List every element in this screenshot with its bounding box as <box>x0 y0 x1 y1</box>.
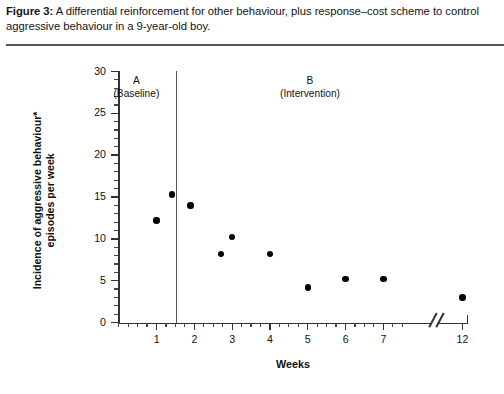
x-tick-minor <box>118 323 119 327</box>
y-tick-minor <box>114 138 119 139</box>
y-axis-title: Incidence of aggressive behaviour* episo… <box>31 95 58 305</box>
phase-label-a: A (Baseline) <box>99 74 174 100</box>
y-tick-major <box>111 154 118 155</box>
y-tick-minor <box>114 230 119 231</box>
chart-figure: Incidence of aggressive behaviour* episo… <box>0 0 504 394</box>
data-point <box>153 217 159 223</box>
y-tick-minor <box>114 314 119 315</box>
data-point <box>305 284 311 290</box>
y-tick-major <box>111 196 118 197</box>
x-tick-minor <box>250 323 251 327</box>
x-tick-major <box>194 323 195 330</box>
x-tick-minor <box>326 323 327 327</box>
y-tick-minor <box>114 213 119 214</box>
x-tick-label: 2 <box>182 333 206 345</box>
x-tick-label: 5 <box>296 333 320 345</box>
x-tick-major <box>383 323 384 330</box>
x-tick-minor <box>392 323 393 327</box>
y-tick-label: 25 <box>76 106 106 118</box>
y-tick-label: 15 <box>76 190 106 202</box>
data-point <box>229 234 235 240</box>
y-tick-minor <box>114 205 119 206</box>
y-tick-major <box>111 71 118 72</box>
y-axis-title-line1: Incidence of aggressive behaviour* <box>31 112 43 290</box>
x-tick-minor <box>222 323 223 327</box>
y-tick-minor <box>114 146 119 147</box>
y-tick-major <box>111 322 118 323</box>
y-tick-minor <box>114 247 119 248</box>
x-tick-minor <box>260 323 261 327</box>
data-point <box>187 202 193 208</box>
phase-divider-line <box>176 71 177 323</box>
y-tick-minor <box>114 272 119 273</box>
y-tick-minor <box>114 121 119 122</box>
x-tick-minor <box>213 323 214 327</box>
x-tick-major <box>269 323 270 330</box>
phase-a-letter: A <box>133 75 140 86</box>
y-tick-minor <box>114 305 119 306</box>
x-tick-label: 7 <box>371 333 395 345</box>
y-tick-major <box>111 280 118 281</box>
x-tick-minor <box>335 323 336 327</box>
y-tick-minor <box>114 263 119 264</box>
x-tick-minor <box>184 323 185 327</box>
x-tick-minor <box>203 323 204 327</box>
x-tick-label: 12 <box>451 333 475 345</box>
y-tick-minor <box>114 222 119 223</box>
y-tick-label: 10 <box>76 232 106 244</box>
y-axis-title-line2: episodes per week <box>44 95 57 305</box>
y-tick-minor <box>114 188 119 189</box>
data-point <box>380 276 386 282</box>
x-tick-minor <box>317 323 318 327</box>
y-tick-label: 20 <box>76 148 106 160</box>
y-tick-label: 0 <box>76 316 106 328</box>
x-tick-minor <box>137 323 138 327</box>
x-tick-minor <box>165 323 166 327</box>
y-tick-major <box>111 113 118 114</box>
y-tick-minor <box>114 255 119 256</box>
data-point <box>169 191 175 197</box>
y-tick-minor <box>114 297 119 298</box>
data-point <box>342 276 348 282</box>
y-axis-line <box>118 71 120 324</box>
x-tick-minor <box>146 323 147 327</box>
x-tick-minor <box>402 323 403 327</box>
phase-b-sublabel: (Intervention) <box>240 87 380 100</box>
y-tick-minor <box>114 171 119 172</box>
x-tick-minor <box>364 323 365 327</box>
y-tick-label: 5 <box>76 274 106 286</box>
x-tick-minor <box>175 323 176 327</box>
x-tick-major <box>307 323 308 330</box>
axis-break-slash <box>435 313 444 328</box>
x-axis-line-after-break <box>439 323 467 325</box>
y-tick-major <box>111 238 118 239</box>
y-tick-minor <box>114 163 119 164</box>
x-tick-label: 4 <box>258 333 282 345</box>
x-tick-minor <box>298 323 299 327</box>
y-tick-minor <box>114 104 119 105</box>
x-axis-title: Weeks <box>118 358 468 370</box>
x-tick-minor <box>279 323 280 327</box>
y-tick-minor <box>114 288 119 289</box>
y-tick-minor <box>114 129 119 130</box>
data-point <box>267 251 273 257</box>
x-tick-major <box>345 323 346 330</box>
x-tick-major <box>156 323 157 330</box>
data-point <box>459 294 465 300</box>
x-tick-minor <box>288 323 289 327</box>
data-point <box>218 251 224 257</box>
x-tick-minor <box>373 323 374 327</box>
x-tick-label: 3 <box>220 333 244 345</box>
x-tick-minor <box>241 323 242 327</box>
y-tick-minor <box>114 180 119 181</box>
x-tick-major <box>232 323 233 330</box>
x-tick-minor <box>128 323 129 327</box>
phase-a-sublabel: (Baseline) <box>99 87 174 100</box>
x-tick-label: 6 <box>334 333 358 345</box>
phase-b-letter: B <box>307 75 314 86</box>
x-tick-minor <box>354 323 355 327</box>
x-tick-label: 1 <box>145 333 169 345</box>
phase-label-b: B (Intervention) <box>240 74 380 100</box>
